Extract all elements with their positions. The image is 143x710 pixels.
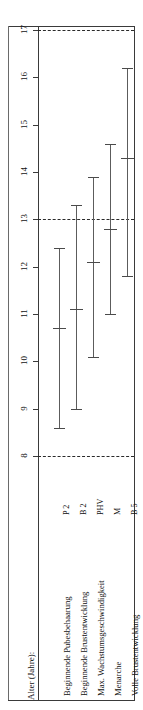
range-bar-median — [53, 328, 66, 329]
reference-line-8 — [38, 456, 134, 457]
range-bar-cap-low — [122, 276, 133, 277]
range-bar-cap-high — [122, 68, 133, 69]
frame-border-left — [8, 26, 9, 700]
y-tick-14 — [33, 172, 38, 173]
range-bar-median — [121, 158, 134, 159]
y-tick-16 — [33, 77, 38, 78]
y-tick-15 — [33, 125, 38, 126]
y-tick-9 — [33, 409, 38, 410]
range-bar-median — [104, 229, 117, 230]
table-rule-bottom — [8, 700, 135, 701]
category-label: Volle Brustentwicklung — [131, 615, 140, 696]
y-tick-10 — [33, 361, 38, 362]
range-bar-cap-low — [71, 409, 82, 410]
y-tick-label-8: 8 — [20, 446, 29, 466]
range-bar-stem — [93, 177, 94, 357]
range-bar-cap-high — [105, 144, 116, 145]
y-tick-label-12: 12 — [20, 256, 29, 276]
y-tick-label-13: 13 — [20, 209, 29, 229]
frame-border-right — [134, 26, 135, 700]
y-tick-label-17: 17 — [20, 20, 29, 40]
chart-figure: 891011121314151617 Beginnende Pubesbehaa… — [0, 0, 143, 710]
range-bar-cap-high — [54, 248, 65, 249]
y-tick-label-9: 9 — [20, 398, 29, 418]
range-bar-median — [70, 309, 83, 310]
reference-line-13 — [38, 219, 134, 220]
range-bar-cap-low — [54, 428, 65, 429]
category-abbreviation: B 2 — [80, 503, 89, 515]
category-abbreviation: P 2 — [63, 505, 72, 515]
plot-area — [38, 26, 134, 482]
axis-title: Alter (Jahre): — [27, 652, 36, 700]
y-tick-11 — [33, 314, 38, 315]
reference-line-17 — [38, 30, 134, 31]
range-bar-cap-high — [88, 177, 99, 178]
y-tick-13 — [33, 219, 38, 220]
category-label: Beginnende Brustentwicklung — [80, 592, 89, 696]
y-tick-12 — [33, 267, 38, 268]
category-label: Max. Wachstumsgeschwindigkeit — [97, 580, 106, 696]
range-bar-cap-high — [71, 205, 82, 206]
range-bar-cap-low — [105, 314, 116, 315]
y-tick-8 — [33, 456, 38, 457]
y-tick-label-11: 11 — [20, 304, 29, 324]
category-abbreviation: M — [114, 508, 123, 515]
category-abbreviation: PHV — [97, 499, 106, 515]
range-bar-cap-low — [88, 357, 99, 358]
y-tick-17 — [33, 30, 38, 31]
y-tick-label-16: 16 — [20, 67, 29, 87]
range-bar-median — [87, 262, 100, 263]
category-abbreviation: B 5 — [131, 503, 140, 515]
range-bar-stem — [59, 248, 60, 428]
y-tick-label-14: 14 — [20, 162, 29, 182]
y-tick-label-10: 10 — [20, 351, 29, 371]
range-bar-stem — [76, 205, 77, 409]
category-label: Beginnende Pubesbehaarung — [63, 596, 72, 696]
range-bar-stem — [127, 68, 128, 276]
y-tick-label-15: 15 — [20, 114, 29, 134]
category-label: Menarche — [114, 662, 123, 696]
